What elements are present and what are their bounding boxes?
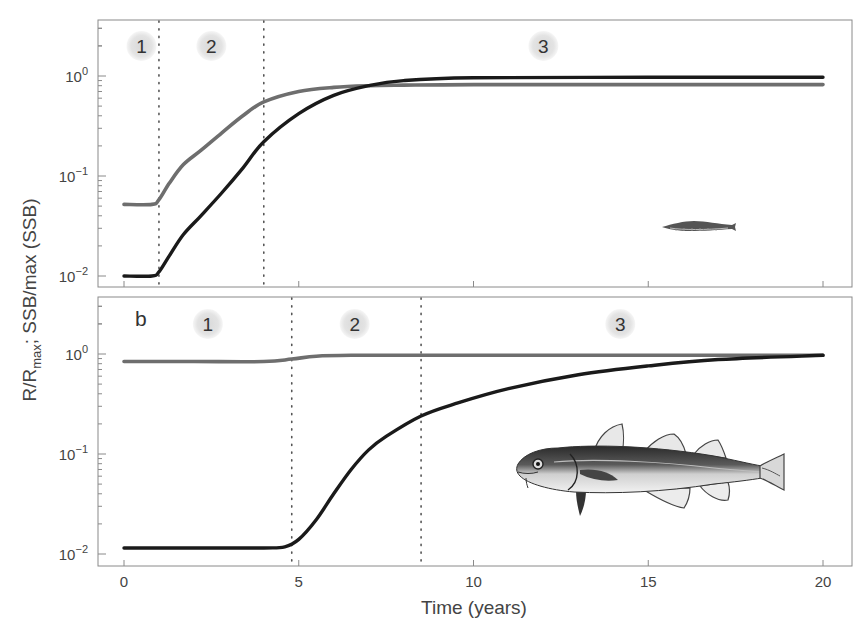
svg-text:3: 3 — [615, 314, 626, 335]
svg-text:1: 1 — [203, 314, 214, 335]
x-tick-labels: 05101520 — [120, 573, 832, 590]
black-series-line — [124, 77, 823, 276]
svg-text:2: 2 — [349, 314, 360, 335]
svg-text:2: 2 — [206, 36, 217, 57]
adult-cod-icon — [517, 424, 784, 516]
panel-a-phase-labels: 123 — [126, 31, 558, 61]
y-axis-title-subscript: max — [29, 344, 44, 369]
y-axis-title-main: R/R — [19, 369, 40, 402]
y-tick-label: 10−2 — [59, 543, 88, 563]
x-axis-title: Time (years) — [421, 597, 527, 618]
y-axis-title-rest: ; SSB/max (SSB) — [19, 199, 40, 345]
panel-a: 123 10010−110−2 — [59, 20, 852, 287]
y-tick-label: 10−1 — [59, 443, 88, 463]
svg-text:3: 3 — [538, 36, 549, 57]
y-tick-label: 100 — [65, 343, 88, 363]
y-tick-label: 10−2 — [59, 265, 88, 285]
x-tick-label: 10 — [465, 573, 482, 590]
x-tick-label: 20 — [815, 573, 832, 590]
svg-text:1: 1 — [136, 36, 147, 57]
x-tick-label: 0 — [120, 573, 128, 590]
svg-text:R/Rmax; SSB/max (SSB): R/Rmax; SSB/max (SSB) — [19, 199, 44, 402]
phase-label-bubble: 2 — [340, 309, 370, 339]
phase-label-bubble: 3 — [528, 31, 558, 61]
panel-b-phase-labels: 123 — [193, 309, 635, 339]
figure: R/Rmax; SSB/max (SSB) 123 10010−110−2 12… — [0, 0, 868, 642]
panel-b-ytick-labels: 10010−110−2 — [59, 343, 88, 563]
phase-label-bubble: 1 — [126, 31, 156, 61]
panel-b-ticks — [98, 306, 823, 566]
x-tick-label: 5 — [295, 573, 303, 590]
x-tick-label: 15 — [640, 573, 657, 590]
phase-label-bubble: 1 — [193, 309, 223, 339]
phase-label-bubble: 2 — [196, 31, 226, 61]
y-tick-label: 10−1 — [59, 165, 88, 185]
juvenile-fish-icon — [662, 221, 736, 231]
panel-b-letter: b — [135, 307, 147, 330]
y-axis-title: R/Rmax; SSB/max (SSB) — [19, 199, 44, 402]
panel-b: 123 10010−110−2 b — [59, 297, 852, 566]
y-tick-label: 100 — [65, 65, 88, 85]
panel-a-ticks — [98, 28, 823, 287]
panel-a-ytick-labels: 10010−110−2 — [59, 65, 88, 285]
panel-a-series — [124, 77, 823, 276]
phase-label-bubble: 3 — [605, 309, 635, 339]
